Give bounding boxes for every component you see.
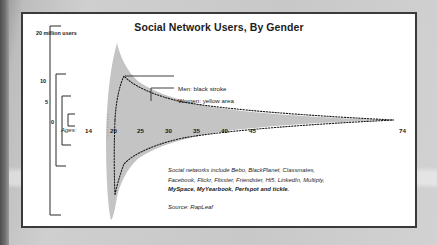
y-axis-tick-5: 5 bbox=[45, 99, 48, 105]
source-note: Source: RapLeaf bbox=[168, 204, 213, 210]
age-label-74: 74 bbox=[399, 127, 406, 134]
age-label-25: 25 bbox=[137, 127, 144, 134]
footnote-line-1: Social networks include Bebo, BlackPlane… bbox=[168, 166, 324, 176]
slide-left-edge-strip bbox=[0, 0, 9, 245]
footnote-line-2: Facebook, Flickr, Flixster, Friendster, … bbox=[168, 176, 324, 186]
y-axis-bracket-0 bbox=[68, 114, 75, 126]
chart-title: Social Network Users, By Gender bbox=[23, 21, 415, 33]
legend-label-men: Men: black stroke bbox=[178, 85, 227, 92]
footnote-line-3: MySpace, MyYearbook, Perfspot and tickle… bbox=[168, 185, 324, 195]
legend-label-women: Women: yellow area bbox=[178, 97, 234, 104]
y-axis-bracket-5 bbox=[62, 96, 71, 145]
chart-plot-area: Social Network Users, By Gender 20 milli… bbox=[23, 14, 415, 226]
age-label-40: 40 bbox=[221, 127, 228, 134]
age-label-45: 45 bbox=[249, 127, 256, 134]
y-axis-label-top: 20 million users bbox=[36, 30, 77, 36]
age-label-20: 20 bbox=[110, 127, 117, 134]
age-label-30: 30 bbox=[165, 127, 172, 134]
footnote-block: Social networks include Bebo, BlackPlane… bbox=[168, 166, 324, 195]
chart-panel: Social Network Users, By Gender 20 milli… bbox=[21, 12, 417, 228]
y-axis-tick-10: 10 bbox=[40, 78, 46, 84]
age-label-14: 14 bbox=[85, 127, 92, 134]
y-axis-bracket-10 bbox=[56, 74, 66, 166]
ages-axis-caption: Ages: bbox=[61, 127, 76, 133]
age-label-35: 35 bbox=[193, 127, 200, 134]
y-axis-tick-0: 0 bbox=[51, 119, 54, 125]
